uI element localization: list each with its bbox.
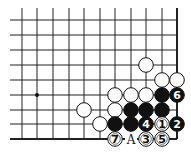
white-stone-3: 3 (139, 132, 154, 147)
black-stone (155, 103, 170, 118)
move-number: 3 (142, 133, 150, 146)
white-stone (155, 73, 170, 88)
black-stone-4: 4 (139, 117, 154, 132)
move-number: 6 (173, 89, 181, 102)
black-stone-6: 6 (170, 88, 185, 103)
go-board: 6412735 A (0, 0, 191, 157)
white-stone (139, 58, 154, 73)
white-stone (124, 88, 139, 103)
white-stone-5: 5 (155, 132, 170, 147)
move-number: 2 (173, 118, 181, 131)
star-point (35, 93, 39, 97)
white-stone (93, 117, 108, 132)
white-stone-1: 1 (155, 117, 170, 132)
move-number: 4 (142, 118, 150, 131)
black-stone (155, 88, 170, 103)
markers: A (125, 132, 137, 147)
black-stone-2: 2 (170, 117, 185, 132)
black-stone (124, 103, 139, 118)
move-number: 7 (111, 133, 119, 146)
move-number: 1 (158, 118, 166, 131)
black-stone (139, 103, 154, 118)
white-stone (77, 103, 92, 118)
point-marker-label: A (126, 133, 136, 147)
star-points (35, 93, 39, 97)
white-stone (108, 103, 123, 118)
white-stone (139, 88, 154, 103)
white-stone (170, 73, 185, 88)
black-stone (124, 117, 139, 132)
white-stone (108, 88, 123, 103)
white-stone-7: 7 (108, 132, 123, 147)
move-number: 5 (158, 133, 166, 146)
black-stone (108, 117, 123, 132)
